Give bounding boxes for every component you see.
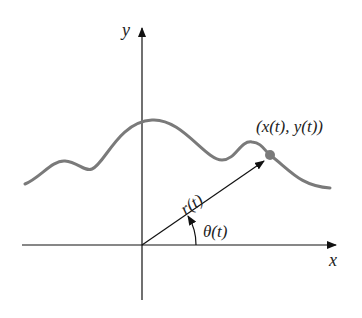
point-label: (x(t), y(t)) bbox=[256, 117, 323, 136]
polar-parametric-diagram: y x (x(t), y(t)) r(t) θ(t) bbox=[0, 0, 362, 318]
y-axis-label: y bbox=[120, 20, 130, 40]
x-axis-label: x bbox=[328, 250, 337, 270]
angle-label: θ(t) bbox=[203, 222, 228, 241]
angle-arc bbox=[188, 216, 196, 245]
radius-label: r(t) bbox=[177, 190, 207, 219]
point-marker bbox=[265, 150, 275, 160]
